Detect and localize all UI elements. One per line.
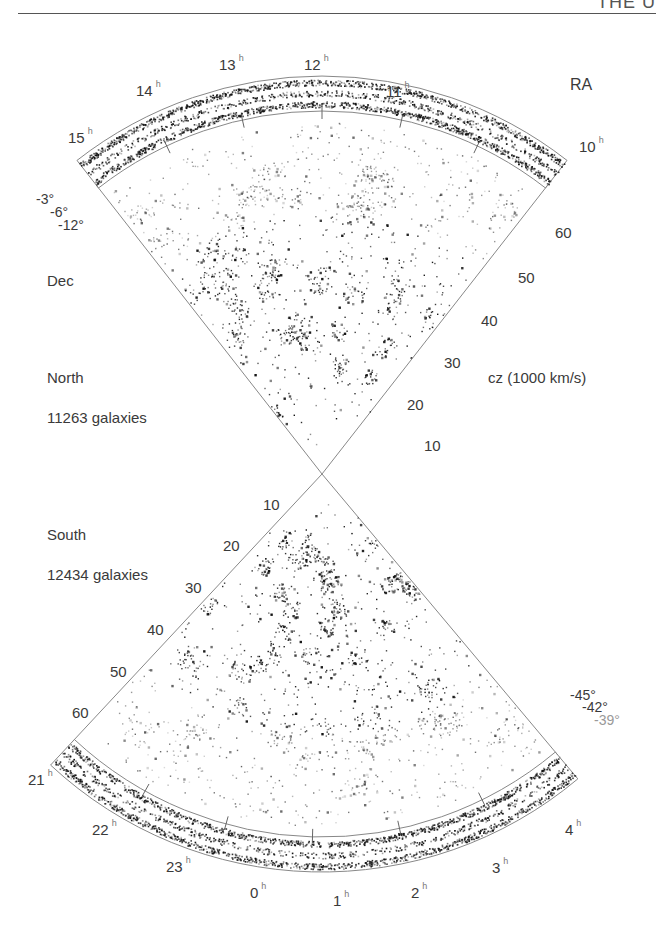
ra-label-14h: 14h: [136, 83, 161, 98]
galaxy-points: [55, 80, 576, 871]
ra-label-12h: 12h: [304, 57, 329, 72]
ra-label-11h: 11h: [386, 84, 410, 99]
cz-south-10: 10: [263, 497, 280, 512]
ra-label-4h: 4h: [565, 822, 581, 837]
south-galaxy-count: 12434 galaxies: [47, 567, 148, 582]
cz-south-50: 50: [110, 664, 127, 679]
cz-south-40: 40: [147, 622, 164, 637]
ra-label-0h: 0h: [250, 885, 266, 900]
south-label: South: [47, 527, 86, 542]
ra-label-15h: 15h: [68, 130, 93, 145]
ra-label-1h: 1h: [333, 893, 349, 908]
cz-south-60: 60: [72, 705, 89, 720]
dec-label-minus39: -39°: [594, 713, 620, 727]
north-wedge: [77, 76, 567, 474]
cz-north-20: 20: [407, 397, 424, 412]
north-label: North: [47, 370, 84, 385]
north-galaxy-count: 11263 galaxies: [47, 410, 147, 425]
cz-north-30: 30: [444, 355, 461, 370]
ra-label-13h: 13h: [219, 57, 244, 72]
cz-north-10: 10: [424, 438, 441, 453]
ra-label-3h: 3h: [492, 860, 508, 875]
redshift-cone-diagram: [0, 0, 656, 937]
cz-north-60: 60: [555, 225, 572, 240]
cz-north-50: 50: [518, 270, 535, 285]
ra-label-21h: 21h: [28, 772, 53, 787]
ra-label-10h: 10h: [579, 139, 604, 154]
cz-south-20: 20: [223, 538, 240, 553]
ra-label-23h: 23h: [166, 859, 191, 874]
cz-south-30: 30: [185, 580, 202, 595]
ra-label-2h: 2h: [411, 885, 427, 900]
ra-label-22h: 22h: [92, 822, 117, 837]
south-wedge: [51, 474, 578, 872]
ra-axis-label: RA: [570, 77, 592, 93]
dec-axis-label: Dec: [47, 273, 74, 288]
cz-axis-label: cz (1000 km/s): [488, 370, 586, 385]
dec-label-minus12: -12°: [58, 218, 84, 232]
cz-north-40: 40: [481, 313, 498, 328]
